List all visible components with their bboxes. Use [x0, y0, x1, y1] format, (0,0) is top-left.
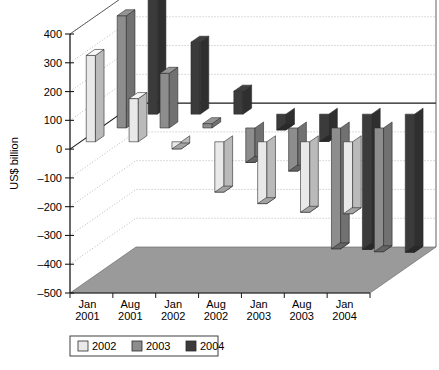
y-axis-title: US$ billion: [8, 137, 20, 190]
legend: 200220032004: [70, 336, 224, 356]
bar-front-face: [405, 114, 414, 252]
y-tick-label: –400: [38, 258, 62, 270]
bar-front-face: [374, 128, 383, 252]
bar-Jan-2004-2003: [374, 122, 392, 252]
category-label-1: Aug2001: [118, 298, 142, 322]
bar-front-face: [117, 16, 126, 128]
bar-Jan-2003-2002: [258, 136, 276, 204]
y-tick-label: 400: [44, 28, 62, 40]
y-tick-label: –300: [38, 229, 62, 241]
category-label-0: Jan2001: [75, 298, 99, 322]
bar-front-face: [258, 142, 267, 204]
legend-item-2004[interactable]: 2004: [186, 340, 224, 352]
legend-label: 2003: [146, 340, 170, 352]
bar-front-face: [191, 42, 200, 114]
bar-side-face: [353, 136, 362, 214]
bar-side-face: [169, 67, 178, 128]
legend-item-2002[interactable]: 2002: [78, 340, 116, 352]
y-tick-label: –500: [38, 287, 62, 299]
category-label-line: Aug: [206, 298, 226, 310]
bar-side-face: [224, 136, 233, 192]
bar-front-face: [86, 55, 95, 141]
legend-swatch: [78, 341, 88, 351]
bar-side-face: [310, 136, 319, 212]
category-axis: Jan2001Aug2001Jan2002Aug2002Jan2003Aug20…: [70, 293, 370, 322]
bar-chart-3d: 4003002001000–100–200–300–400–500US$ bil…: [0, 0, 439, 370]
category-label-line: 2001: [75, 310, 99, 322]
legend-item-2003[interactable]: 2003: [132, 340, 170, 352]
bar-Jan-2002-2004: [234, 85, 252, 114]
legend-label: 2002: [92, 340, 116, 352]
bar-front-face: [289, 128, 298, 171]
bar-front-face: [343, 142, 352, 214]
legend-swatch: [132, 341, 142, 351]
bar-side-face: [414, 108, 423, 252]
category-label-line: Jan: [164, 298, 182, 310]
category-label-line: Aug: [120, 298, 140, 310]
legend-swatch: [186, 341, 196, 351]
bar-Jan-2004-2002: [343, 136, 361, 214]
bar-front-face: [129, 99, 138, 142]
bar-Aug-2001-2004: [191, 36, 209, 114]
bar-Jan-2004-2004: [405, 108, 423, 252]
category-label-line: Jan: [250, 298, 268, 310]
category-label-line: 2002: [161, 310, 185, 322]
bar-Aug-2003-2002: [301, 136, 319, 212]
y-tick-label: 100: [44, 114, 62, 126]
bar-side-face: [95, 49, 104, 141]
bar-front-face: [362, 114, 371, 249]
y-tick-label: –200: [38, 201, 62, 213]
bar-side-face: [138, 93, 147, 142]
y-tick-label: –100: [38, 172, 62, 184]
bar-side-face: [384, 122, 393, 252]
bar-front-face: [148, 0, 157, 114]
category-label-line: Aug: [292, 298, 312, 310]
category-label-line: Jan: [79, 298, 97, 310]
y-tick-label: 0: [56, 143, 62, 155]
bar-front-face: [160, 73, 169, 128]
bar-front-face: [203, 124, 212, 128]
category-label-line: 2003: [289, 310, 313, 322]
category-label-3: Aug2002: [204, 298, 228, 322]
bar-front-face: [301, 142, 310, 213]
category-label-5: Aug2003: [289, 298, 313, 322]
bar-front-face: [234, 91, 243, 114]
bar-Aug-2002-2002: [215, 136, 233, 192]
bar-side-face: [200, 36, 209, 114]
legend-label: 2004: [200, 340, 224, 352]
bar-Jan-2001-2002: [86, 49, 104, 141]
bar-Aug-2001-2002: [129, 93, 147, 142]
chart-container: 4003002001000–100–200–300–400–500US$ bil…: [0, 0, 439, 370]
value-axis: 4003002001000–100–200–300–400–500US$ bil…: [8, 28, 74, 299]
category-label-line: Jan: [336, 298, 354, 310]
category-label-line: 2004: [332, 310, 356, 322]
bar-front-face: [215, 142, 224, 192]
y-tick-label: 300: [44, 57, 62, 69]
bar-Aug-2001-2003: [160, 67, 178, 128]
category-label-6: Jan2004: [332, 298, 356, 322]
category-label-2: Jan2002: [161, 298, 185, 322]
category-label-line: 2002: [204, 310, 228, 322]
category-label-line: 2003: [247, 310, 271, 322]
bar-front-face: [331, 128, 340, 249]
y-tick-label: 200: [44, 86, 62, 98]
category-label-4: Jan2003: [247, 298, 271, 322]
category-label-line: 2001: [118, 310, 142, 322]
bar-side-face: [267, 136, 276, 204]
